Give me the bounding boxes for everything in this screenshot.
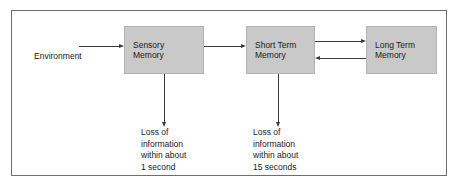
connector-short-term-to-loss-line bbox=[278, 74, 279, 122]
memory-model-diagram: Environment Sensory Memory Short Term Me… bbox=[0, 0, 459, 185]
connector-sensory-to-short-term-line bbox=[204, 46, 241, 47]
connector-short-term-to-long-term-line bbox=[315, 41, 361, 42]
loss-note-sensory-memory: Loss of information within about 1 secon… bbox=[141, 127, 186, 173]
loss-note-sensory-line2: information bbox=[141, 139, 186, 151]
box-long-term-memory: Long Term Memory bbox=[366, 26, 437, 74]
loss-note-sensory-line1: Loss of bbox=[141, 127, 186, 139]
loss-note-short-term-memory: Loss of information within about 15 seco… bbox=[253, 127, 298, 173]
box-short-term-memory-line2: Memory bbox=[255, 50, 314, 61]
box-long-term-memory-line2: Memory bbox=[375, 50, 436, 61]
connector-sensory-to-loss-line bbox=[164, 74, 165, 122]
diagram-frame: Environment Sensory Memory Short Term Me… bbox=[11, 10, 447, 176]
connector-long-term-to-short-term-arrowhead bbox=[315, 56, 320, 60]
connector-long-term-to-short-term-line bbox=[320, 58, 366, 59]
loss-note-short-term-line4: 15 seconds bbox=[253, 162, 298, 174]
box-sensory-memory-line1: Sensory bbox=[133, 40, 203, 51]
connector-environment-to-sensory-line bbox=[79, 46, 119, 47]
box-sensory-memory: Sensory Memory bbox=[124, 26, 204, 74]
loss-note-short-term-line1: Loss of bbox=[253, 127, 298, 139]
loss-note-sensory-line3: within about bbox=[141, 150, 186, 162]
environment-label: Environment bbox=[34, 51, 82, 62]
box-sensory-memory-line2: Memory bbox=[133, 50, 203, 61]
box-long-term-memory-line1: Long Term bbox=[375, 40, 436, 51]
box-short-term-memory-line1: Short Term bbox=[255, 40, 314, 51]
loss-note-short-term-line2: information bbox=[253, 139, 298, 151]
loss-note-short-term-line3: within about bbox=[253, 150, 298, 162]
loss-note-sensory-line4: 1 second bbox=[141, 162, 186, 174]
box-short-term-memory: Short Term Memory bbox=[246, 26, 315, 74]
